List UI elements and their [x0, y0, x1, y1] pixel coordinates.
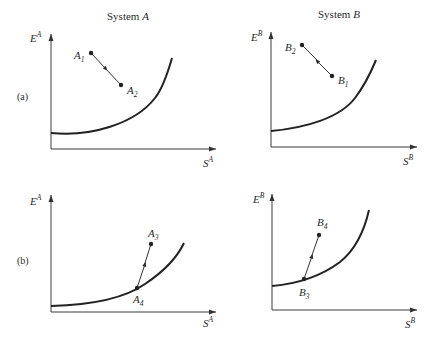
label-b1: B1	[338, 74, 348, 89]
x-axis-label: SB	[403, 153, 414, 167]
x-axis-label: SB	[405, 316, 416, 330]
process-arrow	[91, 53, 106, 69]
energy-entropy-diagram: System A System B (a) (b) EA SA A1 A2 EB…	[0, 0, 433, 339]
label-b4: B4	[317, 216, 328, 231]
ground-state-curve	[51, 58, 172, 134]
point-a4	[135, 286, 139, 290]
process-arrow	[304, 256, 312, 279]
ground-state-curve	[51, 243, 184, 306]
panel-system-a-case-a: EA SA A1 A2	[29, 30, 216, 169]
panel-system-b-case-b: EB SB B4 B3	[252, 191, 417, 330]
process-line	[144, 244, 151, 266]
x-axis-label: SA	[203, 155, 214, 169]
point-b4	[317, 233, 321, 237]
process-line	[311, 235, 319, 258]
y-axis-label: EB	[250, 29, 263, 43]
header-system-a: System A	[107, 10, 149, 22]
process-line	[302, 45, 319, 62]
label-a3: A3	[147, 227, 159, 242]
label-b2: B2	[285, 41, 296, 56]
x-axis-label: SA	[203, 315, 214, 329]
point-b3	[302, 277, 306, 281]
row-label-b: (b)	[17, 255, 29, 267]
process-arrow	[317, 61, 332, 76]
y-axis-label: EA	[29, 30, 42, 44]
ground-state-curve	[271, 60, 376, 131]
label-b3: B3	[299, 286, 310, 301]
point-a2	[119, 83, 123, 87]
row-label-a: (a)	[17, 91, 28, 103]
process-line	[104, 67, 121, 85]
y-axis-label: EB	[252, 191, 265, 205]
point-a1	[89, 51, 93, 55]
panel-system-a-case-b: EA SA A3 A4	[29, 193, 216, 329]
label-a1: A1	[73, 49, 84, 64]
point-b2	[300, 43, 304, 47]
point-a3	[149, 242, 153, 246]
label-a2: A2	[126, 84, 138, 99]
header-system-b: System B	[318, 8, 360, 20]
y-axis-label: EA	[29, 193, 42, 207]
panel-system-b-case-a: EB SB B2 B1	[250, 29, 417, 167]
point-b1	[330, 74, 334, 78]
label-a4: A4	[132, 293, 144, 308]
